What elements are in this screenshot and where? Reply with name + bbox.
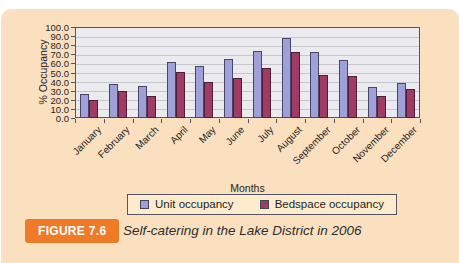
bar	[138, 86, 147, 118]
legend-label: Bedspace occupancy	[275, 198, 384, 210]
bar	[80, 94, 89, 118]
y-tick	[71, 91, 75, 92]
bar	[282, 38, 291, 118]
bar	[176, 72, 185, 118]
bar	[167, 62, 176, 118]
bar	[253, 51, 262, 118]
bar	[368, 87, 377, 118]
x-tick	[104, 119, 105, 123]
bar	[348, 76, 357, 118]
y-tick	[71, 54, 75, 55]
y-tick-label: 100.0	[19, 22, 69, 33]
figure-card: % Occupancy Months Unit occupancyBedspac…	[1, 9, 459, 263]
y-tick	[71, 100, 75, 101]
gridline	[76, 82, 419, 83]
x-tick	[420, 119, 421, 123]
x-tick	[334, 119, 335, 123]
x-tick	[161, 119, 162, 123]
bar	[233, 78, 242, 118]
bar	[319, 75, 328, 118]
y-tick	[71, 109, 75, 110]
legend-item: Bedspace occupancy	[260, 198, 384, 210]
legend-swatch-bedspace-occupancy	[260, 200, 269, 209]
x-tick	[133, 119, 134, 123]
y-tick	[71, 82, 75, 83]
legend-label: Unit occupancy	[155, 198, 234, 210]
bar	[147, 96, 156, 118]
bar	[118, 91, 127, 118]
gridline	[76, 37, 419, 38]
bar	[204, 82, 213, 118]
bar	[310, 52, 319, 118]
figure-badge: FIGURE 7.6	[25, 219, 119, 243]
x-axis-title: Months	[75, 182, 420, 194]
gridline	[76, 64, 419, 65]
bar	[397, 83, 406, 118]
x-tick	[276, 119, 277, 123]
y-tick	[71, 63, 75, 64]
x-tick-label: July	[255, 124, 275, 144]
bar	[377, 96, 386, 118]
legend-swatch-unit-occupancy	[140, 200, 149, 209]
bar	[195, 66, 204, 118]
x-tick	[190, 119, 191, 123]
x-tick	[75, 119, 76, 123]
x-tick	[219, 119, 220, 123]
gridline	[76, 55, 419, 56]
x-tick-label: June	[224, 124, 247, 147]
gridline	[76, 46, 419, 47]
bar	[109, 84, 118, 118]
x-tick	[305, 119, 306, 123]
bar	[224, 59, 233, 118]
y-tick	[71, 27, 75, 28]
legend-item: Unit occupancy	[140, 198, 234, 210]
bar	[291, 52, 300, 118]
y-tick	[71, 36, 75, 37]
bar	[89, 100, 98, 118]
bar	[339, 60, 348, 118]
gridline	[76, 73, 419, 74]
x-tick	[391, 119, 392, 123]
x-tick-label: March	[133, 124, 160, 151]
y-tick	[71, 45, 75, 46]
legend: Unit occupancyBedspace occupancy	[127, 194, 397, 215]
x-tick	[363, 119, 364, 123]
figure-caption: Self-catering in the Lake District in 20…	[123, 223, 362, 238]
bar	[406, 89, 415, 118]
x-tick	[248, 119, 249, 123]
y-tick	[71, 73, 75, 74]
x-tick-label: May	[197, 124, 218, 145]
x-tick-label: April	[167, 124, 189, 146]
bar	[262, 68, 271, 118]
